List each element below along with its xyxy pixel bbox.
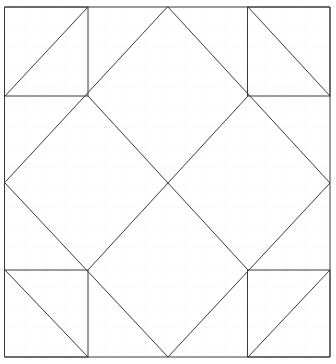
figure-canvas [0,0,336,364]
geometry-diagram [0,0,336,364]
